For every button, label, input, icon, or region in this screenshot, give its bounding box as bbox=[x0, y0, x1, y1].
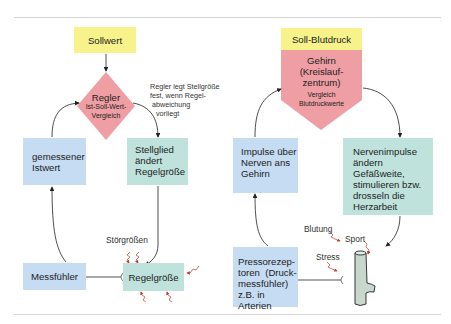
vergleich-line: Vergleich bbox=[281, 90, 362, 99]
nervenimpulse-line: stimulieren bzw. bbox=[353, 179, 433, 190]
regler-diamond-label: Regler Ist-Soll-Wert- Vergleich bbox=[78, 92, 134, 120]
regler-sub1: Ist-Soll-Wert- bbox=[78, 103, 134, 112]
pressorezeptoren-line: messfühler) bbox=[238, 278, 298, 289]
stellglied-box: Stellglied ändert Regelgröße bbox=[127, 138, 188, 185]
sport-label: Sport bbox=[345, 234, 365, 244]
pressorezeptoren-line: z.B. in Arterien bbox=[238, 289, 298, 311]
istwert-box: gemessener Istwert bbox=[23, 138, 86, 185]
pressorezeptoren-line: toren (Druck- bbox=[238, 267, 298, 278]
nervenimpulse-line: Herzarbeit bbox=[353, 201, 433, 212]
sollwert-label: Sollwert bbox=[88, 35, 122, 46]
regler-sub2: Vergleich bbox=[78, 112, 134, 121]
stress-label: Stress bbox=[316, 252, 340, 262]
impulse-box: Impulse über Nerven ans Gehirn bbox=[233, 138, 298, 193]
soll-blutdruck-box: Soll-Blutdruck bbox=[281, 28, 362, 50]
regler-title: Regler bbox=[78, 92, 134, 103]
soll-blutdruck-label: Soll-Blutdruck bbox=[292, 34, 351, 45]
vessel-icon bbox=[355, 251, 375, 306]
note-line: vorliegt bbox=[150, 109, 230, 118]
regelgroesse-label: Regelgröße bbox=[128, 272, 178, 283]
pressorezeptoren-line: Pressorezep- bbox=[238, 256, 298, 267]
vergleich-line: Blutdruckwerte bbox=[281, 99, 362, 108]
impulse-line: Impulse über bbox=[241, 146, 298, 157]
blutung-label: Blutung bbox=[304, 224, 332, 234]
stellglied-line: Regelgröße bbox=[135, 166, 188, 177]
pressorezeptoren-box: Pressorezep- toren (Druck- messfühler) z… bbox=[233, 247, 298, 307]
messfuehler-label: Messfühler bbox=[31, 271, 78, 282]
istwert-line: gemessener bbox=[32, 151, 86, 162]
note-line: abweichung bbox=[150, 100, 230, 109]
istwert-line: Istwert bbox=[32, 162, 86, 173]
stellglied-line: ändert bbox=[135, 155, 188, 166]
impulse-line: Gehirn bbox=[241, 168, 298, 179]
gehirn-line: zentrum) bbox=[281, 77, 362, 88]
nervenimpulse-line: Nervenimpulse bbox=[353, 146, 433, 157]
note-line: Regler legt Stellgröße bbox=[150, 82, 230, 91]
nervenimpulse-line: drosseln die bbox=[353, 190, 433, 201]
stellglied-line: Stellglied bbox=[135, 144, 188, 155]
messfuehler-box: Messfühler bbox=[23, 263, 86, 290]
regelgroesse-box: Regelgröße bbox=[123, 263, 184, 291]
gehirn-line: (Kreislauf- bbox=[281, 66, 362, 77]
impulse-line: Nerven ans bbox=[241, 157, 298, 168]
nervenimpulse-line: Gefäßweite, bbox=[353, 168, 433, 179]
gehirn-label: Gehirn (Kreislauf- zentrum) Vergleich Bl… bbox=[281, 55, 362, 108]
stoergroessen-label: Störgrößen bbox=[106, 235, 148, 245]
nervenimpulse-line: ändern bbox=[353, 157, 433, 168]
gehirn-line: Gehirn bbox=[281, 55, 362, 66]
note-line: fest, wenn Regel- bbox=[150, 91, 230, 100]
nervenimpulse-box: Nervenimpulse ändern Gefäßweite, stimuli… bbox=[343, 138, 433, 215]
sollwert-box: Sollwert bbox=[74, 27, 136, 53]
regler-note: Regler legt Stellgröße fest, wenn Regel-… bbox=[150, 82, 230, 118]
